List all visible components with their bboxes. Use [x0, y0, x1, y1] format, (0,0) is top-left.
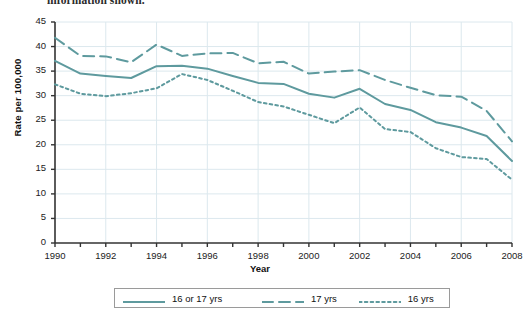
x-tick-label: 1998 — [240, 250, 276, 261]
legend-item[interactable]: 17 yrs — [262, 289, 359, 307]
y-axis-label: Rate per 100,000 — [12, 38, 23, 158]
x-axis-label: Year — [0, 263, 520, 274]
y-tick-label: 30 — [24, 89, 46, 100]
y-tick-label: 45 — [24, 15, 46, 26]
x-tick-label: 1990 — [37, 250, 73, 261]
y-tick-label: 0 — [24, 236, 46, 247]
x-tick-label: 2006 — [443, 250, 479, 261]
y-tick-label: 15 — [24, 162, 46, 173]
series-line-1 — [55, 38, 512, 142]
y-tick-label: 20 — [24, 138, 46, 149]
x-tick-label: 2008 — [494, 250, 527, 261]
x-tick-label: 1992 — [88, 250, 124, 261]
x-tick-label: 2002 — [342, 250, 378, 261]
legend-swatch-solid-icon — [123, 293, 165, 303]
series-line-2 — [55, 74, 512, 180]
y-tick-label: 10 — [24, 187, 46, 198]
legend-swatch-dashed-icon — [262, 293, 304, 303]
y-tick-label: 40 — [24, 40, 46, 51]
chart-legend: 16 or 17 yrs17 yrs16 yrs — [114, 288, 450, 308]
y-tick-label: 5 — [24, 211, 46, 222]
legend-item[interactable]: 16 yrs — [359, 289, 449, 307]
x-tick-label: 2000 — [291, 250, 327, 261]
series-line-0 — [55, 61, 512, 161]
legend-label: 16 yrs — [408, 293, 434, 304]
x-tick-label: 1996 — [189, 250, 225, 261]
legend-label: 17 yrs — [311, 293, 337, 304]
x-tick-label: 2004 — [392, 250, 428, 261]
y-tick-label: 35 — [24, 64, 46, 75]
y-tick-label: 25 — [24, 113, 46, 124]
legend-swatch-dotted-icon — [359, 293, 401, 303]
x-tick-label: 1994 — [139, 250, 175, 261]
legend-item[interactable]: 16 or 17 yrs — [115, 289, 262, 307]
legend-label: 16 or 17 yrs — [172, 293, 222, 304]
